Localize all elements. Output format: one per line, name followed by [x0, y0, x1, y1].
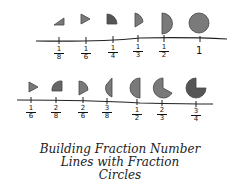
circle-piece-2-3 — [153, 78, 172, 98]
label-1-4: 14 — [107, 45, 119, 60]
circle-piece-1-6 — [81, 14, 90, 24]
circle-piece-1-4 — [107, 14, 117, 24]
number-line-2 — [17, 100, 213, 104]
label-1-2-b: 12 — [131, 107, 143, 122]
circle-piece-1-8 — [54, 18, 64, 25]
label-3-4: 34 — [190, 108, 202, 123]
label-1-6: 16 — [80, 46, 92, 61]
label-1-3: 13 — [132, 44, 144, 59]
caption-line-3: Circles — [0, 169, 240, 182]
label-1-2: 12 — [158, 44, 170, 59]
label-2-3: 23 — [156, 107, 168, 122]
circle-piece-2-8 — [52, 81, 62, 91]
circle-piece-1-2 — [162, 13, 173, 34]
circle-piece-2-6 — [79, 81, 88, 95]
label-1-6-b: 16 — [25, 105, 37, 120]
label-1-8: 18 — [53, 46, 65, 61]
caption-title: Building Fraction Number Lines with Frac… — [0, 143, 240, 182]
label-whole: 1 — [196, 45, 202, 56]
circle-piece-1-3 — [135, 13, 143, 27]
label-2-8: 28 — [50, 105, 62, 120]
label-2-6: 26 — [77, 105, 89, 120]
circle-piece-1-6-b — [29, 82, 38, 92]
number-line-1 — [36, 38, 227, 42]
circle-piece-3-4 — [186, 78, 206, 98]
circle-piece-1-2-b — [130, 78, 140, 98]
circle-piece-whole — [189, 13, 209, 33]
circle-piece-3-8 — [106, 78, 112, 97]
label-3-8: 38 — [101, 105, 113, 120]
